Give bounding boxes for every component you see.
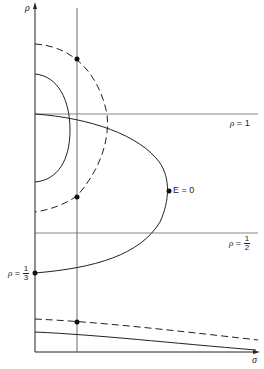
energy-zero-label: E = 0 bbox=[173, 185, 194, 195]
lower-dashed-point bbox=[75, 320, 80, 325]
y-axis-label: ρ bbox=[25, 2, 30, 13]
y-axis-arrow-icon bbox=[33, 2, 37, 9]
phase-diagram bbox=[0, 0, 264, 369]
rho-third-label: ρ = 13 bbox=[8, 265, 29, 282]
rho-one-label: ρ = 1 bbox=[230, 118, 250, 128]
dashed-curve-lower-point bbox=[75, 195, 80, 200]
rho-half-label: ρ = 12 bbox=[229, 235, 250, 252]
x-axis-label: σ bbox=[252, 354, 257, 365]
inner-solid-curve bbox=[35, 74, 70, 182]
lower-dashed-curve bbox=[35, 319, 258, 340]
energy-zero-point bbox=[167, 189, 172, 194]
lower-solid-curve bbox=[35, 332, 256, 350]
energy-zero-curve bbox=[35, 114, 168, 273]
dashed-curve-upper-point bbox=[75, 57, 80, 62]
outer-dashed-curve bbox=[35, 44, 108, 212]
rho-third-point bbox=[33, 271, 38, 276]
